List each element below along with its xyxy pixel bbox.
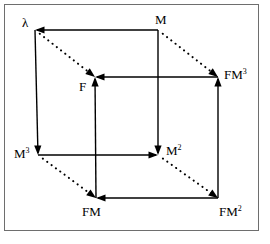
vertex-label-FM: FM <box>82 205 101 218</box>
edge-line-FM-to-F <box>95 79 96 198</box>
edge-M2-to-FM2 <box>163 158 218 198</box>
vertex-label-exponent-FM2: 2 <box>238 204 242 213</box>
arrowhead-M2-to-FM2 <box>208 190 218 198</box>
vertex-label-exponent-M3: 3 <box>26 146 30 155</box>
edge-line-lambda-to-F <box>40 34 91 74</box>
edge-line-M-to-FM3 <box>163 34 214 74</box>
arrowhead-M-to-M2 <box>154 146 161 156</box>
vertex-label-base-M3: M <box>14 146 26 161</box>
edge-FM2-to-FM3 <box>214 77 221 198</box>
vertex-label-M2: M2 <box>166 144 182 157</box>
arrowhead-FM2-to-FM3 <box>214 77 221 87</box>
edge-line-M3-to-FM <box>43 159 91 195</box>
edge-M-to-M2 <box>154 30 161 155</box>
vertex-label-exponent-FM3: 3 <box>243 67 247 76</box>
edge-FM3-to-F <box>95 73 218 80</box>
vertex-label-base-FM3: FM <box>224 67 243 82</box>
arrowhead-FM2-to-FM <box>96 194 106 201</box>
vertex-label-exponent-M2: 2 <box>178 143 182 152</box>
vertex-label-base-M: M <box>155 12 167 27</box>
vertex-label-FM3: FM3 <box>224 68 247 81</box>
vertex-label-M: M <box>155 13 167 26</box>
vertex-label-base-FM: FM <box>82 204 101 219</box>
vertex-label-lambda: λ <box>22 16 28 29</box>
arrowhead-FM-to-F <box>91 77 98 87</box>
edge-M3-to-M2 <box>38 151 158 158</box>
arrowhead-M3-to-M2 <box>149 151 159 158</box>
edge-M-to-FM3 <box>163 34 218 77</box>
edge-lambda-to-F <box>40 34 95 77</box>
arrowhead-M-to-lambda <box>35 26 45 33</box>
edge-M-to-lambda <box>35 26 158 33</box>
edge-FM-to-F <box>91 77 98 198</box>
arrowhead-FM3-to-F <box>95 73 105 80</box>
vertex-label-M3: M3 <box>14 147 30 160</box>
figure-caption-fragment <box>6 234 256 244</box>
edge-FM2-to-FM <box>96 194 218 201</box>
vertex-label-base-FM2: FM <box>219 204 238 219</box>
vertex-label-base-M2: M <box>166 143 178 158</box>
edge-line-lambda-to-M3 <box>35 30 38 153</box>
edge-M3-to-FM <box>43 159 96 198</box>
vertex-label-FM2: FM2 <box>219 205 242 218</box>
arrowhead-lambda-to-M3 <box>34 145 41 155</box>
vertex-label-base-lambda: λ <box>22 15 28 30</box>
edge-lambda-to-M3 <box>34 30 41 155</box>
vertex-label-base-F: F <box>79 79 86 94</box>
arrowhead-M3-to-FM <box>86 189 96 198</box>
figure-root: λMFFM3M3M2FMFM2 <box>0 0 270 244</box>
vertex-label-F: F <box>79 80 86 93</box>
edge-line-M2-to-FM2 <box>163 158 213 194</box>
